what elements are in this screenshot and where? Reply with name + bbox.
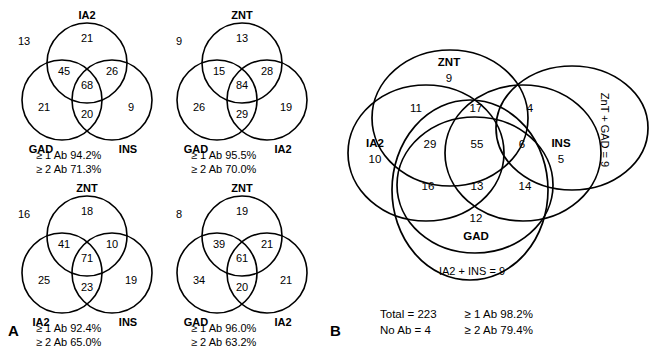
venn-count-left-right: 20 [81,108,93,120]
venn-count-top-right: 21 [261,238,273,250]
venn-label-right: INS [119,143,137,155]
venn-count-right-only: 19 [280,101,292,113]
venn-count-left-right: 23 [81,281,93,293]
venn-count-right-only: 9 [128,101,134,113]
venn-count-outside-left: 13 [18,35,30,47]
venn-count-right-only: 21 [280,274,292,286]
venn-count-ins-only: 5 [558,153,564,165]
venn-label-right: IA2 [274,143,291,155]
venn-label-gad: GAD [463,230,489,242]
venn-count-outside-left: 8 [176,208,182,220]
stat-ge2ab: ≥ 2 Ab 79.4% [437,323,533,339]
venn-count-right-only: 19 [125,274,137,286]
venn-count-left-only: 26 [193,101,205,113]
venn-diagram-b1: ZNT 9 IA2 10 INS 5 12 GAD 11 17 4 29 55 … [320,0,649,312]
venn-count-top-left: 41 [58,238,70,250]
venn-count-left-only: 21 [38,101,50,113]
venn-label-ia2-ins-bottom: IA2 + INS = 9 [439,265,505,277]
venn-stats-a2: ≥ 1 Ab 95.5% ≥ 2 Ab 70.0% [191,148,256,176]
venn-label-ia2: IA2 [366,137,384,149]
panel-b-letter: B [330,322,341,339]
panel-a: A IA2 GAD INS 13 21 45 26 68 21 20 9 ≥ 1… [0,0,320,350]
stat-ge1ab: ≥ 1 Ab 98.2% [437,307,533,323]
venn-count-center: 68 [81,79,93,91]
venn-label-top: ZNT [231,9,253,21]
stat-line: ≥ 1 Ab 94.2% [36,148,101,162]
venn-count-top-only: 13 [236,32,248,44]
stat-line: ≥ 2 Ab 70.0% [191,162,256,176]
venn-label-top: ZNT [76,182,98,194]
venn-stats-a1: ≥ 1 Ab 94.2% ≥ 2 Ab 71.3% [36,148,101,176]
venn-count-top-right: 28 [261,65,273,77]
venn-count-gad-only: 12 [470,212,483,224]
panel-b: B ZNT 9 IA2 10 INS 5 12 GAD 11 [320,0,649,350]
venn-count-ia2-only: 10 [369,153,382,165]
table-row: No Ab = 4 ≥ 2 Ab 79.4% [380,323,533,339]
venn-count-top-right: 26 [106,65,118,77]
venn-stats-a3: ≥ 1 Ab 92.4% ≥ 2 Ab 65.0% [36,321,101,349]
table-row: Total = 223 ≥ 1 Ab 98.2% [380,307,533,323]
venn-label-znt: ZNT [438,56,460,68]
venn-count-left-only: 34 [193,274,205,286]
venn-label-top: ZNT [231,182,253,194]
venn-count-left-right: 29 [236,108,248,120]
stat-line: ≥ 2 Ab 71.3% [36,162,101,176]
stat-line: ≥ 1 Ab 92.4% [36,321,101,335]
stat-noab: No Ab = 4 [380,323,437,339]
venn-count-outside-left: 9 [176,35,182,47]
venn-count-center: 61 [236,252,248,264]
venn-count-znt-ia2-ins: 17 [470,102,483,114]
venn-count-ins-gad-znt: 6 [519,138,525,150]
venn-count-left-only: 25 [38,274,50,286]
venn-count-znt-ia2: 11 [410,102,422,114]
venn-count-znt-only: 9 [446,72,452,84]
venn-label-znt-gad-side: ZnT + GAD = 9 [599,93,611,167]
venn-count-ia2-gad-znt: 29 [424,138,437,150]
venn-ellipse-ins [445,85,601,221]
figure-venn-diagrams: A IA2 GAD INS 13 21 45 26 68 21 20 9 ≥ 1… [0,0,649,350]
venn-count-top-only: 21 [81,32,93,44]
venn-count-top-right: 10 [106,238,118,250]
venn-stats-a4: ≥ 1 Ab 96.0% ≥ 2 Ab 63.2% [191,321,256,349]
venn-count-top-left: 15 [213,65,225,77]
venn-count-top-only: 18 [81,205,93,217]
venn-ellipse-znt [372,50,528,186]
venn-stats-b1: Total = 223 ≥ 1 Ab 98.2% No Ab = 4 ≥ 2 A… [380,307,533,339]
stat-total: Total = 223 [380,307,437,323]
stat-line: ≥ 1 Ab 95.5% [191,148,256,162]
venn-count-all-four: 55 [471,138,484,150]
venn-count-top-only: 19 [236,205,248,217]
venn-count-top-left: 39 [213,238,225,250]
venn-count-center: 71 [81,252,93,264]
venn-count-top-left: 45 [58,65,70,77]
stat-line: ≥ 2 Ab 65.0% [36,335,101,349]
venn-count-znt-ins: 4 [527,102,534,114]
venn-count-ia2-ins-gad: 13 [471,180,484,192]
venn-count-outside-left: 16 [18,208,30,220]
venn-label-right: IA2 [274,316,291,328]
venn-label-ins: INS [551,137,571,149]
venn-count-ia2-gad: 16 [422,180,435,192]
stats-table: Total = 223 ≥ 1 Ab 98.2% No Ab = 4 ≥ 2 A… [380,307,533,339]
venn-count-left-right: 20 [236,281,248,293]
venn-label-top: IA2 [78,9,95,21]
venn-count-center: 84 [236,79,248,91]
venn-count-ins-gad: 14 [519,180,532,192]
stat-line: ≥ 2 Ab 63.2% [191,335,256,349]
stat-line: ≥ 1 Ab 96.0% [191,321,256,335]
venn-label-right: INS [119,316,137,328]
